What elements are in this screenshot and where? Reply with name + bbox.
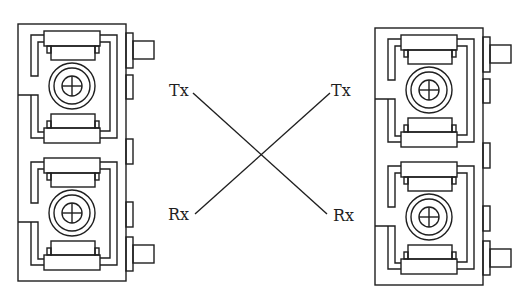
left-rx-label: Rx [168, 205, 189, 224]
left-tx-label: Tx [169, 81, 189, 100]
crossover-diagram: Tx Rx Tx Rx [0, 0, 532, 302]
tx-to-rx-line [193, 93, 327, 214]
left-transceiver-module [18, 24, 154, 281]
right-rx-label: Rx [333, 206, 354, 225]
rx-to-tx-line [195, 93, 330, 214]
right-transceiver-module [375, 28, 511, 285]
right-tx-label: Tx [331, 81, 351, 100]
